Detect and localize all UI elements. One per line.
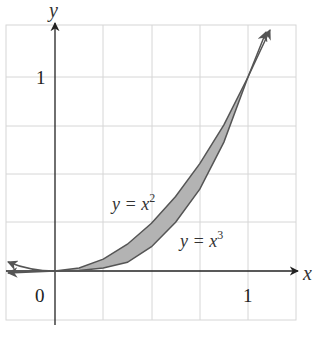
parabola-curve (8, 32, 266, 271)
figure: y x 0 1 1 y = x2 y = x3 (0, 0, 320, 341)
grid (6, 25, 296, 320)
x-axis-label: x (302, 262, 312, 284)
parabola-label-exponent: 2 (149, 191, 155, 205)
x-tick-label-1: 1 (243, 285, 253, 306)
y-axis-label: y (47, 0, 58, 22)
cubic-label-base: y = x (178, 231, 217, 251)
y-tick-label-1: 1 (36, 67, 46, 88)
cubic-label-exponent: 3 (217, 228, 223, 242)
cubic-label: y = x3 (178, 228, 223, 251)
origin-tick-label: 0 (35, 285, 45, 306)
parabola-label-base: y = x (110, 194, 149, 214)
parabola-label: y = x2 (110, 191, 155, 214)
